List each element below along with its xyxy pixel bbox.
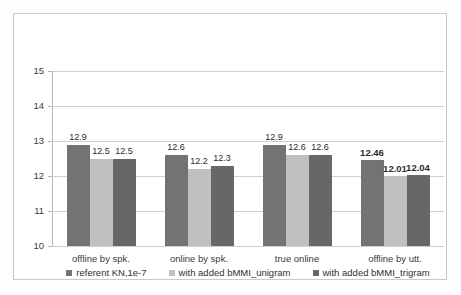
bar-group: 12.612.212.3 bbox=[165, 71, 234, 246]
bar-value-label: 12.46 bbox=[354, 148, 391, 158]
legend-label: referent KN,1e-7 bbox=[76, 268, 146, 278]
y-tick-label-10: 10 bbox=[18, 241, 44, 251]
x-axis-category-label: online by spk. bbox=[150, 254, 248, 264]
y-tick-mark-11 bbox=[48, 211, 52, 212]
legend-item[interactable]: referent KN,1e-7 bbox=[66, 268, 146, 278]
y-tick-mark-14 bbox=[48, 106, 52, 107]
bar-value-label: 12.04 bbox=[400, 163, 437, 173]
bar[interactable] bbox=[309, 155, 332, 246]
bar-value-label: 12.3 bbox=[204, 154, 241, 163]
bar[interactable] bbox=[90, 159, 113, 247]
legend-item[interactable]: with added bMMI_unigram bbox=[169, 268, 291, 278]
bar[interactable] bbox=[188, 169, 211, 246]
gridline-10 bbox=[52, 246, 444, 247]
legend-item[interactable]: with added bMMI_trigram bbox=[313, 268, 430, 278]
y-tick-mark-15 bbox=[48, 71, 52, 72]
bar[interactable] bbox=[286, 155, 309, 246]
chart-legend: referent KN,1e-7with added bMMI_unigramw… bbox=[52, 268, 444, 278]
bar-value-label: 12.6 bbox=[158, 143, 195, 152]
legend-swatch-icon bbox=[66, 270, 72, 276]
chart-frame: 101112131415 12.912.512.512.612.212.312.… bbox=[13, 13, 447, 280]
y-tick-mark-12 bbox=[48, 176, 52, 177]
y-tick-mark-13 bbox=[48, 141, 52, 142]
legend-label: with added bMMI_unigram bbox=[179, 268, 291, 278]
y-tick-label-11: 11 bbox=[18, 206, 44, 216]
bar[interactable] bbox=[113, 159, 136, 247]
bar-group: 12.912.612.6 bbox=[263, 71, 332, 246]
bar-group: 12.4612.0112.04 bbox=[361, 71, 430, 246]
y-tick-mark-10 bbox=[48, 246, 52, 247]
bar[interactable] bbox=[165, 155, 188, 246]
bar-value-label: 12.9 bbox=[256, 133, 293, 142]
bar[interactable] bbox=[263, 145, 286, 247]
bar-value-label: 12.9 bbox=[60, 133, 97, 142]
x-axis-category-label: true online bbox=[248, 254, 346, 264]
bar[interactable] bbox=[407, 175, 430, 246]
y-axis-line bbox=[52, 71, 53, 247]
legend-swatch-icon bbox=[313, 270, 319, 276]
bar-value-label: 12.5 bbox=[106, 147, 143, 156]
y-tick-label-12: 12 bbox=[18, 171, 44, 181]
legend-label: with added bMMI_trigram bbox=[323, 268, 430, 278]
x-axis-category-label: offline by utt. bbox=[346, 254, 444, 264]
bar-value-label: 12.6 bbox=[302, 143, 339, 152]
bar[interactable] bbox=[384, 176, 407, 246]
bar-group: 12.912.512.5 bbox=[67, 71, 136, 246]
legend-swatch-icon bbox=[169, 270, 175, 276]
x-axis-category-label: offline by spk. bbox=[52, 254, 150, 264]
bar[interactable] bbox=[67, 145, 90, 247]
y-tick-label-13: 13 bbox=[18, 136, 44, 146]
y-tick-label-14: 14 bbox=[18, 101, 44, 111]
y-tick-label-15: 15 bbox=[18, 66, 44, 76]
bar[interactable] bbox=[211, 166, 234, 247]
plot-area: 101112131415 12.912.512.512.612.212.312.… bbox=[52, 71, 444, 246]
